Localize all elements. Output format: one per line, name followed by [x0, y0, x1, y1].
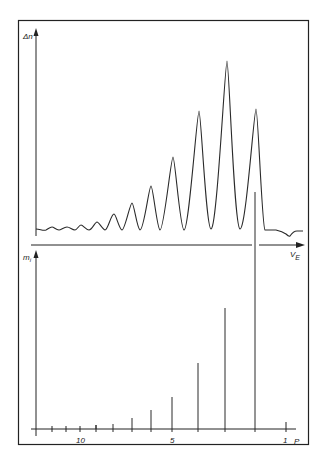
tick-label-10: 10 — [76, 436, 85, 445]
upper-y-axis-arrow-icon — [34, 28, 39, 36]
upper-x-axis-arrow-icon — [296, 242, 305, 248]
lower-y-label: mi — [23, 253, 32, 263]
chromatogram-figure: Δn VE mi P 10 5 1 — [0, 0, 325, 467]
lower-y-axis-arrow-icon — [34, 250, 39, 258]
figure-frame — [19, 21, 309, 445]
elution-trace — [36, 61, 303, 236]
upper-y-label: Δn — [22, 32, 33, 41]
tick-label-1: 1 — [283, 436, 287, 445]
lower-x-label: P — [294, 437, 300, 446]
upper-chart: Δn VE — [22, 28, 305, 261]
tick-label-5: 5 — [170, 436, 175, 445]
upper-x-label: VE — [290, 250, 300, 261]
lower-chart: mi P 10 5 1 — [23, 192, 300, 446]
lower-x-ticks — [52, 422, 286, 432]
